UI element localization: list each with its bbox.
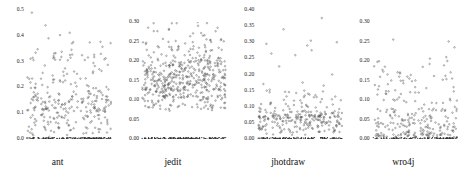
y-tick-label: 0.20 <box>129 58 139 64</box>
y-tick-label: 0.30 <box>244 39 254 45</box>
y-tick-label: 0.10 <box>244 104 254 110</box>
y-tick-label: 0.25 <box>244 56 254 62</box>
panel-caption-jhotdraw: jhotdraw <box>231 157 346 167</box>
y-tick-label: 0.30 <box>129 19 139 25</box>
y-tick-label: 0.05 <box>244 120 254 126</box>
panel-jhotdraw: 0.000.050.100.150.200.250.300.350.40jhot… <box>231 0 346 170</box>
y-tick-label: 0.15 <box>244 88 254 94</box>
y-tick-label: 0.05 <box>360 117 370 123</box>
plot-area-jedit <box>141 22 227 139</box>
y-axis-wro4j: 0.000.050.100.150.200.250.30 <box>346 0 372 170</box>
plot-area-wro4j <box>372 22 458 139</box>
panel-ant: 0.00.10.20.30.40.5ant <box>0 0 115 170</box>
panel-wro4j: 0.000.050.100.150.200.250.30wro4j <box>346 0 461 170</box>
plot-area-ant <box>26 10 112 139</box>
y-tick-label: 0.0 <box>17 136 24 142</box>
panel-caption-wro4j: wro4j <box>346 157 461 167</box>
y-tick-label: 0.30 <box>360 19 370 25</box>
y-tick-label: 0.15 <box>129 78 139 84</box>
scatter-points-wro4j <box>372 22 458 139</box>
scatter-points-ant <box>26 10 112 139</box>
y-tick-label: 0.5 <box>17 7 24 13</box>
y-tick-label: 0.00 <box>360 136 370 142</box>
y-tick-label: 0.25 <box>360 39 370 45</box>
panel-jedit: 0.000.050.100.150.200.250.30jedit <box>115 0 230 170</box>
panel-caption-jedit: jedit <box>115 157 230 167</box>
y-tick-label: 0.4 <box>17 33 24 39</box>
y-axis-ant: 0.00.10.20.30.40.5 <box>0 0 26 170</box>
y-tick-label: 0.35 <box>244 23 254 29</box>
y-axis-jhotdraw: 0.000.050.100.150.200.250.300.350.40 <box>231 0 257 170</box>
y-tick-label: 0.10 <box>360 97 370 103</box>
y-tick-label: 0.05 <box>129 117 139 123</box>
plot-area-jhotdraw <box>257 10 343 139</box>
y-tick-label: 0.25 <box>129 39 139 45</box>
y-tick-label: 0.00 <box>129 136 139 142</box>
y-tick-label: 0.40 <box>244 7 254 13</box>
y-tick-label: 0.15 <box>360 78 370 84</box>
y-tick-label: 0.00 <box>244 136 254 142</box>
y-tick-label: 0.20 <box>360 58 370 64</box>
panel-caption-ant: ant <box>0 157 115 167</box>
y-tick-label: 0.10 <box>129 97 139 103</box>
y-axis-jedit: 0.000.050.100.150.200.250.30 <box>115 0 141 170</box>
y-tick-label: 0.20 <box>244 72 254 78</box>
scatter-points-jedit <box>141 22 227 139</box>
y-tick-label: 0.1 <box>17 110 24 116</box>
y-tick-label: 0.3 <box>17 59 24 65</box>
scatter-points-jhotdraw <box>257 10 343 139</box>
y-tick-label: 0.2 <box>17 85 24 91</box>
scatter-panel-figure: 0.00.10.20.30.40.5ant0.000.050.100.150.2… <box>0 0 461 170</box>
